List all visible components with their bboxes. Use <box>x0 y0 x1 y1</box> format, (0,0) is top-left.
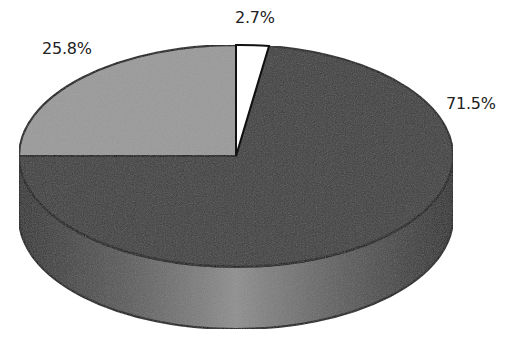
label-white-slice: 2.7% <box>235 8 275 27</box>
pie-slice-gray <box>19 45 236 156</box>
label-gray-slice: 25.8% <box>42 39 92 58</box>
label-dark-slice: 71.5% <box>446 94 496 113</box>
